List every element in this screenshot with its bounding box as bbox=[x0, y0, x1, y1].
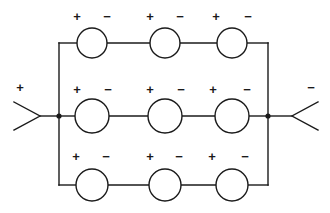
top-branch-cell-3-minus-label: − bbox=[241, 10, 255, 23]
top-branch-cell-3 bbox=[217, 28, 247, 58]
top-branch-cell-1 bbox=[77, 28, 107, 58]
top-branch-cell-3-plus-label: + bbox=[209, 10, 223, 23]
bottom-branch-cell-9-plus-label: + bbox=[205, 150, 219, 163]
negative-terminal-wedge bbox=[292, 102, 318, 130]
middle-branch-cell-6-minus-label: − bbox=[240, 83, 254, 96]
top-branch-cell-1-minus-label: − bbox=[100, 10, 114, 23]
middle-branch-cell-6 bbox=[215, 99, 249, 133]
top-branch-cell-2 bbox=[150, 28, 180, 58]
positive-terminal-wedge bbox=[14, 102, 40, 130]
middle-branch-cell-4-plus-label: + bbox=[70, 83, 84, 96]
bottom-branch-cell-9-minus-label: − bbox=[238, 150, 252, 163]
left-junction-dot bbox=[56, 113, 61, 118]
bottom-branch-cell-7 bbox=[76, 169, 108, 201]
battery-cells-group bbox=[75, 28, 249, 201]
bottom-branch-cell-7-minus-label: − bbox=[99, 150, 113, 163]
bottom-branch-cell-8 bbox=[149, 169, 181, 201]
positive-terminal-label: + bbox=[13, 81, 27, 94]
middle-branch-cell-5 bbox=[148, 99, 182, 133]
top-branch-cell-2-plus-label: + bbox=[143, 10, 157, 23]
middle-branch-cell-4 bbox=[75, 99, 109, 133]
right-junction-dot bbox=[265, 113, 270, 118]
middle-branch-cell-5-plus-label: + bbox=[143, 83, 157, 96]
middle-branch-cell-5-minus-label: − bbox=[174, 83, 188, 96]
middle-branch-cell-4-minus-label: − bbox=[101, 83, 115, 96]
circuit-schematic-svg bbox=[0, 0, 330, 213]
bottom-branch-cell-7-plus-label: + bbox=[69, 150, 83, 163]
bottom-branch-cell-9 bbox=[216, 169, 248, 201]
bottom-branch-cell-8-plus-label: + bbox=[143, 150, 157, 163]
bottom-branch-cell-8-minus-label: − bbox=[172, 150, 186, 163]
top-branch-cell-2-minus-label: − bbox=[173, 10, 187, 23]
negative-terminal-label: − bbox=[304, 81, 318, 94]
middle-branch-cell-6-plus-label: + bbox=[206, 83, 220, 96]
top-branch-cell-1-plus-label: + bbox=[70, 10, 84, 23]
circuit-diagram-canvas: +−+−+−+−+−+−+−+−+−+− bbox=[0, 0, 330, 213]
